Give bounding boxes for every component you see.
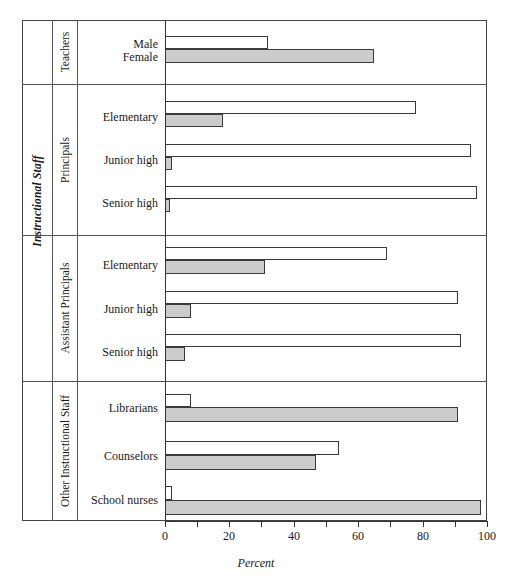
bar-counselors-white bbox=[165, 441, 339, 455]
row-label-male: Male bbox=[72, 38, 158, 50]
x-tick-40 bbox=[294, 521, 295, 527]
bar-assistant-principals-senior-high-white bbox=[165, 334, 461, 347]
x-tick-20 bbox=[229, 521, 230, 527]
bar-counselors-gray bbox=[165, 455, 316, 470]
x-tick-0 bbox=[165, 521, 166, 527]
bar-principals-junior-high-white bbox=[165, 144, 471, 157]
bar-principals-senior-high-white bbox=[165, 186, 477, 199]
bar-assistant-principals-elementary-white bbox=[165, 247, 387, 260]
x-tick-30 bbox=[261, 521, 262, 527]
bar-school-nurses-gray bbox=[165, 500, 481, 515]
row-label-elementary-principals: Elementary bbox=[72, 111, 158, 123]
x-tick-10 bbox=[197, 521, 198, 527]
bar-school-nurses-white bbox=[165, 486, 172, 500]
bar-teachers-male bbox=[165, 36, 268, 49]
group-label-text: Assistant Principals bbox=[59, 262, 71, 353]
plot-area bbox=[165, 20, 487, 521]
x-tick-label-0: 0 bbox=[162, 529, 168, 544]
x-tick-label-60: 60 bbox=[352, 529, 364, 544]
row-label-senior-high-assistant-principals: Senior high bbox=[72, 346, 158, 358]
group-label-text: Other Instructional Staff bbox=[59, 395, 71, 507]
bar-principals-junior-high-gray bbox=[165, 157, 172, 170]
row-label-librarians: Librarians bbox=[72, 402, 158, 414]
row-label-senior-high-principals: Senior high bbox=[72, 197, 158, 209]
x-tick-80 bbox=[423, 521, 424, 527]
chart-canvas: Instructional Staff Teachers Principals … bbox=[0, 0, 512, 584]
x-tick-label-100: 100 bbox=[478, 529, 496, 544]
bar-librarians-white bbox=[165, 394, 191, 407]
x-tick-100 bbox=[487, 521, 488, 527]
supergroup-label-instructional-staff: Instructional Staff bbox=[22, 20, 52, 381]
y-axis-line bbox=[165, 20, 166, 521]
bar-assistant-principals-elementary-gray bbox=[165, 260, 265, 274]
group-label-text: Principals bbox=[59, 137, 71, 183]
x-tick-50 bbox=[326, 521, 327, 527]
bar-assistant-principals-junior-high-white bbox=[165, 291, 458, 304]
supergroup-label-text: Instructional Staff bbox=[31, 155, 43, 246]
bar-principals-elementary-white bbox=[165, 101, 416, 114]
x-tick-60 bbox=[358, 521, 359, 527]
row-label-school-nurses: School nurses bbox=[72, 494, 158, 506]
bar-teachers-female bbox=[165, 49, 374, 63]
row-label-elementary-assistant-principals: Elementary bbox=[72, 259, 158, 271]
x-tick-label-40: 40 bbox=[288, 529, 300, 544]
x-tick-label-20: 20 bbox=[223, 529, 235, 544]
row-label-junior-high-assistant-principals: Junior high bbox=[72, 303, 158, 315]
group-label-text: Teachers bbox=[59, 32, 71, 73]
row-label-female: Female bbox=[72, 51, 158, 63]
bar-assistant-principals-junior-high-gray bbox=[165, 304, 191, 318]
bar-principals-elementary-gray bbox=[165, 114, 223, 127]
x-axis-title: Percent bbox=[0, 556, 512, 571]
bar-librarians-gray bbox=[165, 407, 458, 422]
x-tick-label-80: 80 bbox=[417, 529, 429, 544]
x-tick-90 bbox=[455, 521, 456, 527]
row-label-junior-high-principals: Junior high bbox=[72, 154, 158, 166]
bar-assistant-principals-senior-high-gray bbox=[165, 347, 185, 361]
row-label-counselors: Counselors bbox=[72, 450, 158, 462]
x-tick-70 bbox=[390, 521, 391, 527]
